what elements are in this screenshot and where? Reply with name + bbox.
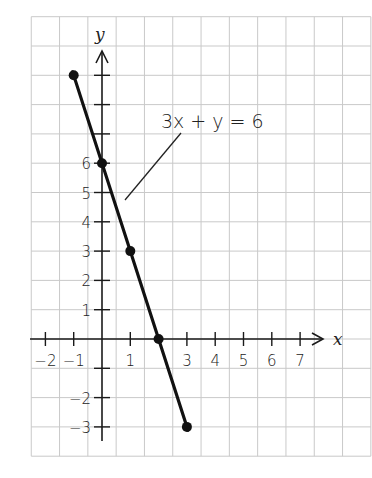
x-tick-label: −2 (34, 352, 56, 370)
y-tick-label: −2 (69, 390, 91, 408)
y-tick-label: 4 (81, 214, 91, 232)
data-point (182, 422, 192, 432)
equation-label: 3x + y = 6 (161, 110, 264, 132)
x-tick-label: 5 (239, 352, 249, 370)
x-tick-label: 1 (126, 352, 136, 370)
data-point (125, 246, 135, 256)
line-graph: −2−1134567−3−2123456 x y 3x + y = 6 (0, 0, 372, 478)
x-tick-label: 4 (210, 352, 220, 370)
data-point (154, 334, 164, 344)
x-axis-label: x (333, 329, 343, 349)
y-axis-label: y (94, 24, 105, 44)
x-tick-label: 3 (182, 352, 192, 370)
y-tick-label: 1 (81, 302, 91, 320)
y-tick-label: 2 (81, 272, 91, 290)
x-tick-label: 6 (267, 352, 277, 370)
y-tick-label: 5 (81, 185, 91, 203)
x-tick-label: −1 (63, 352, 85, 370)
x-tick-label: 7 (295, 352, 305, 370)
data-point (97, 158, 107, 168)
data-point (69, 70, 79, 80)
y-tick-label: 6 (81, 155, 91, 173)
y-tick-label: −3 (69, 419, 91, 437)
tick-labels: −2−1134567−3−2123456 (34, 155, 305, 437)
y-tick-label: 3 (81, 243, 91, 261)
